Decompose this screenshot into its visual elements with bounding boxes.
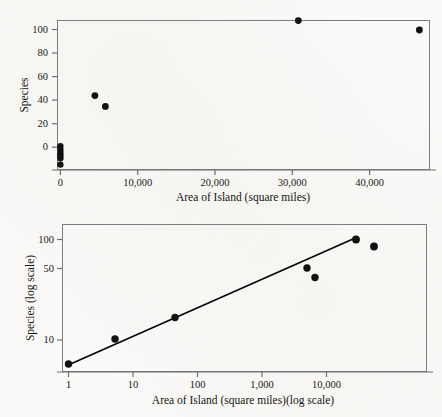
- x-tick-label: 20,000: [201, 178, 230, 189]
- x-tick-label: 10,000: [123, 178, 152, 189]
- x-tick-label: 0: [58, 178, 63, 189]
- linear-scatter-panel: 100 80 60 40 20 0 0 10,000 20,000 30,000…: [0, 0, 442, 205]
- linear-x-tickmarks: [60, 170, 369, 175]
- y-tick-label: 100: [28, 234, 54, 245]
- loglog-y-tickmarks: [57, 240, 62, 341]
- y-tick-label: 20: [22, 118, 48, 129]
- figure-page: 100 80 60 40 20 0 0 10,000 20,000 30,000…: [0, 0, 442, 417]
- linear-x-axis-title: Area of Island (square miles): [176, 191, 310, 203]
- linear-axis-ticks: [0, 0, 442, 205]
- y-tick-label: 0: [22, 142, 48, 153]
- x-tick-label: 1: [66, 380, 71, 391]
- loglog-x-tickmarks: [69, 372, 327, 377]
- x-tick-label: 40,000: [355, 178, 384, 189]
- y-tick-label: 80: [22, 48, 48, 59]
- x-tick-label: 10: [128, 380, 139, 391]
- loglog-y-axis-title: Species (log scale): [24, 255, 36, 341]
- y-tick-label: 100: [22, 24, 48, 35]
- x-tick-label: 30,000: [278, 178, 307, 189]
- linear-y-axis-title: Species: [18, 77, 30, 112]
- x-tick-label: 10,000: [312, 380, 341, 391]
- x-tick-label: 100: [190, 380, 206, 391]
- loglog-scatter-panel: 100 50 10 1 10 100 1,000 10,000 Species …: [0, 205, 442, 417]
- linear-y-tickmarks: [52, 30, 57, 148]
- x-tick-label: 1,000: [250, 380, 274, 391]
- loglog-x-axis-title: Area of Island (square miles)(log scale): [152, 394, 334, 406]
